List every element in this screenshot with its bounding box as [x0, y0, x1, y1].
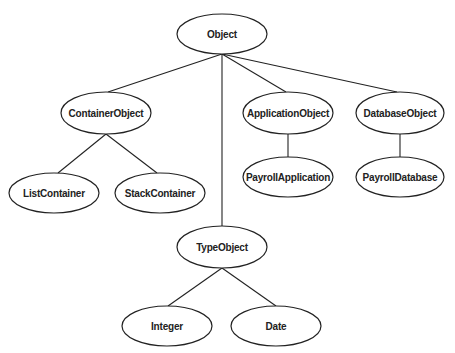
- edge-object-to-application-object: [222, 54, 286, 92]
- node-label: PayrollApplication: [246, 172, 330, 183]
- class-hierarchy-diagram: ObjectContainerObjectApplicationObjectDa…: [0, 0, 455, 353]
- node-type-object: TypeObject: [177, 226, 267, 268]
- edge-container-object-to-list-container: [58, 134, 106, 173]
- node-label: Date: [266, 321, 288, 332]
- edge-object-to-container-object: [108, 54, 222, 92]
- node-label: Object: [207, 29, 238, 40]
- node-label: ApplicationObject: [247, 108, 330, 119]
- node-date: Date: [231, 306, 321, 346]
- node-label: ListContainer: [23, 188, 85, 199]
- edge-type-object-to-date: [222, 268, 276, 306]
- edge-type-object-to-integer: [168, 268, 222, 306]
- node-label: Integer: [151, 321, 183, 332]
- node-stack-container: StackContainer: [115, 173, 205, 213]
- node-object: Object: [177, 14, 267, 54]
- node-application-object: ApplicationObject: [243, 92, 333, 134]
- node-label: TypeObject: [196, 242, 249, 253]
- node-container-object: ContainerObject: [61, 92, 151, 134]
- node-list-container: ListContainer: [9, 173, 99, 213]
- node-label: PayrollDatabase: [363, 172, 438, 183]
- node-payroll-database: PayrollDatabase: [356, 157, 444, 197]
- node-integer: Integer: [122, 306, 212, 346]
- node-payroll-application: PayrollApplication: [243, 157, 333, 197]
- node-label: StackContainer: [125, 188, 196, 199]
- node-label: ContainerObject: [69, 108, 145, 119]
- node-label: DatabaseObject: [364, 108, 438, 119]
- edge-object-to-database-object: [222, 54, 397, 92]
- nodes-layer: ObjectContainerObjectApplicationObjectDa…: [9, 14, 444, 346]
- edge-container-object-to-stack-container: [106, 134, 157, 173]
- node-database-object: DatabaseObject: [356, 92, 444, 134]
